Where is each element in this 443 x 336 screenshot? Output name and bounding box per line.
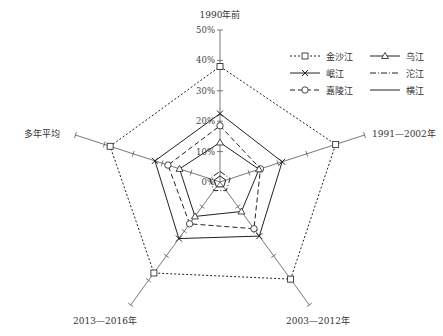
legend-label: 金沙江 <box>326 51 353 62</box>
axis-label: 2013—2016年 <box>73 315 137 326</box>
x-marker-icon <box>279 159 285 165</box>
square-marker-icon <box>288 276 294 282</box>
series-乌江 <box>176 139 263 219</box>
legend-label: 嘉陵江 <box>326 85 353 96</box>
square-marker-icon <box>107 143 113 149</box>
radial-tick-label: 0% <box>202 177 216 187</box>
radial-tick-label: 50% <box>196 25 215 35</box>
axis-tick <box>307 303 312 307</box>
series-line <box>155 114 282 239</box>
circle-marker-icon <box>186 221 192 227</box>
axis-tick <box>182 229 187 233</box>
axis-label: 多年平均 <box>24 128 60 139</box>
legend-label: 岷江 <box>326 69 344 79</box>
circle-marker-icon <box>217 123 223 129</box>
triangle-marker-icon <box>217 139 224 145</box>
axis-tick <box>164 254 169 258</box>
radial-tick-label: 40% <box>196 55 215 65</box>
axis-label: 1990年前 <box>200 9 241 20</box>
axis-line <box>220 135 365 182</box>
series-line <box>180 142 260 216</box>
axis-tick <box>146 279 151 283</box>
axis-tick <box>271 254 276 258</box>
series-line <box>110 66 336 279</box>
axis-label: 1991—2002年 <box>372 128 436 139</box>
x-marker-icon <box>152 158 158 164</box>
radial-tick-label: 30% <box>196 86 215 96</box>
legend-label: 沱江 <box>406 68 424 79</box>
axis-tick <box>128 303 133 307</box>
circle-marker-icon <box>251 226 257 232</box>
triangle-marker-icon <box>238 208 245 214</box>
series-金沙江 <box>107 63 339 282</box>
radar-chart: 0%10%20%30%40%50%1990年前1991—2002年2003—20… <box>0 0 443 336</box>
circle-marker-icon <box>302 87 308 93</box>
axis-tick <box>235 205 240 209</box>
square-marker-icon <box>302 53 308 59</box>
circle-marker-icon <box>165 162 171 168</box>
axis-tick <box>200 205 205 209</box>
square-marker-icon <box>333 141 339 147</box>
axis-label: 2003—2012年 <box>286 315 350 326</box>
legend-label: 乌江 <box>406 51 424 62</box>
legend: 金沙江乌江岷江沱江嘉陵江横江 <box>290 51 424 96</box>
legend-label: 横江 <box>406 85 424 96</box>
square-marker-icon <box>151 270 157 276</box>
axis-line <box>220 182 309 305</box>
square-marker-icon <box>217 63 223 69</box>
